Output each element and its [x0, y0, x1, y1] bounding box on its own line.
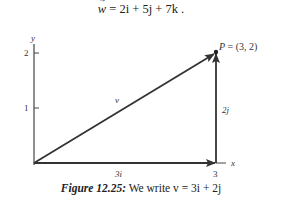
x-tick-label-3: 3	[213, 169, 218, 179]
vector-v-label: v⃗	[115, 95, 126, 105]
vector-v	[34, 54, 214, 163]
y-axis-label: y	[30, 33, 35, 43]
figure-caption: Figure 12.25: We write v = 3i + 2j	[0, 182, 282, 194]
point-p-label: P = (3, 2)	[218, 41, 257, 53]
vector-diagram: y 2 1 x 3 3i⃗ 2j⃗ v⃗ P = (3, 2)	[0, 0, 282, 205]
figure-number: Figure 12.25:	[61, 182, 126, 194]
y-tick-label-2: 2	[24, 48, 29, 58]
vector-2j-label: 2j⃗	[222, 105, 236, 115]
y-tick-label-1: 1	[24, 103, 29, 113]
caption-text: We write v = 3i + 2j	[129, 182, 222, 194]
point-p	[214, 50, 218, 54]
x-axis-label: x	[230, 158, 235, 168]
vector-3i-label: 3i⃗	[114, 169, 129, 179]
